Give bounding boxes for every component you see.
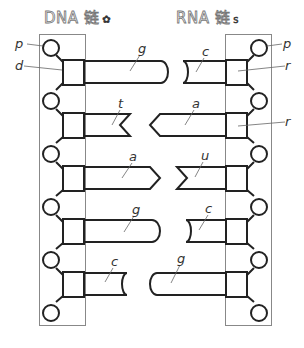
sugar-square: [226, 219, 247, 244]
rna-base-label: c: [205, 201, 212, 216]
sugar-square: [226, 60, 247, 85]
dna-base-label: c: [111, 254, 118, 269]
label-ribose-2: r: [285, 114, 292, 129]
phosphate-circle: [43, 40, 59, 56]
base-a-point: [150, 114, 226, 136]
rna-base-label: u: [201, 148, 209, 163]
phosphate-circle: [251, 305, 267, 321]
label-deoxyribose: d: [15, 58, 24, 73]
base-u-notch: [177, 167, 226, 189]
sugar-square: [226, 166, 247, 191]
base-t-notch: [84, 114, 130, 136]
phosphate-circle: [43, 199, 59, 215]
base-g-round: [84, 61, 168, 83]
nucleic-acid-diagram: p d p r r g t a g c c a u c g: [0, 0, 304, 348]
sugar-square: [63, 113, 84, 138]
dna-base-label: t: [118, 96, 124, 111]
phosphate-circle: [251, 252, 267, 268]
rna-base-label: c: [202, 44, 209, 59]
dna-base-label: a: [129, 149, 137, 164]
sugar-square: [63, 60, 84, 85]
base-c-concave: [183, 61, 226, 83]
rna-strand: [150, 40, 267, 321]
phosphate-circle: [43, 252, 59, 268]
phosphate-circle: [251, 93, 267, 109]
dna-strand: [43, 40, 168, 321]
label-ribose-1: r: [285, 58, 292, 73]
sugar-square: [226, 272, 247, 297]
base-c-concave: [186, 220, 226, 242]
sugar-square: [63, 272, 84, 297]
phosphate-circle: [251, 199, 267, 215]
phosphate-circle: [43, 146, 59, 162]
rna-base-label: g: [177, 251, 185, 266]
phosphate-circle: [251, 40, 267, 56]
base-c-concave: [84, 273, 127, 295]
rna-base-label: a: [192, 96, 200, 111]
dna-base-label: g: [132, 202, 140, 217]
dna-base-label: g: [138, 41, 146, 56]
phosphate-circle: [251, 146, 267, 162]
sugar-square: [63, 219, 84, 244]
base-g-round: [150, 273, 226, 295]
sugar-square: [63, 166, 84, 191]
base-g-round: [84, 220, 160, 242]
phosphate-circle: [43, 305, 59, 321]
label-phosphate-right: p: [282, 36, 291, 51]
phosphate-circle: [43, 93, 59, 109]
label-phosphate-left: p: [14, 36, 23, 51]
